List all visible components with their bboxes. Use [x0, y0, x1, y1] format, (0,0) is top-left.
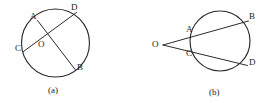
label-b-point-B: B — [249, 12, 255, 21]
label-a-point-D: D — [71, 3, 78, 12]
label-a-center-O: O — [38, 40, 45, 49]
label-a-point-C: C — [15, 44, 21, 53]
label-a-point-A: A — [30, 12, 37, 21]
geometry-figure-svg — [0, 0, 269, 103]
figure-container: A D C B O (a) O A B C D (b) — [0, 0, 269, 103]
secant-ocd — [163, 45, 248, 66]
caption-panel-a: (a) — [48, 86, 58, 95]
label-b-point-C: C — [186, 49, 192, 58]
label-b-point-A: A — [186, 25, 193, 34]
label-b-point-O: O — [152, 40, 159, 49]
panel-b-group — [163, 11, 250, 71]
caption-panel-b: (b) — [209, 88, 220, 97]
circle-b — [190, 11, 250, 71]
label-b-point-D: D — [249, 58, 256, 67]
secant-oab — [163, 21, 249, 45]
label-a-point-B: B — [77, 63, 83, 72]
